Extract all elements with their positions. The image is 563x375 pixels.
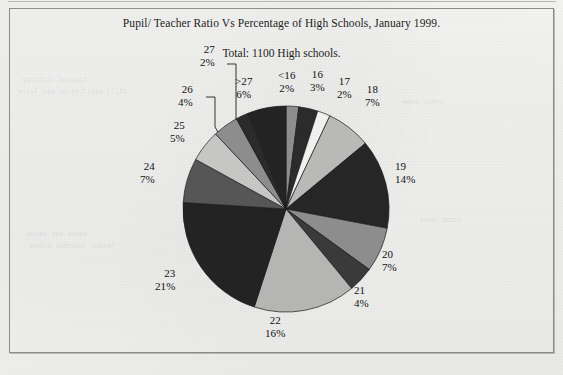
scanned-page: nauonal vomumg (0251 snits Len ent anu T… [0, 0, 563, 375]
pie-label-20: 20 7% [382, 248, 397, 273]
pie-wedges [183, 106, 389, 312]
chart-frame: Pupil/ Teacher Ratio Vs Percentage of Hi… [9, 8, 554, 353]
pie-label-19: 19 14% [395, 160, 415, 185]
pie-plot-area: <16 2% 16 3% 17 2% 18 7% 19 14% 20 7% [10, 9, 553, 352]
pie-label-17: 17 2% [337, 75, 352, 100]
pie-label-21: 21 4% [354, 284, 369, 309]
page-top-rule [8, 1, 556, 2]
pie-label-26: 26 4% [178, 83, 193, 108]
pie-label-23: 23 21% [155, 267, 175, 292]
pie-label-18: 18 7% [365, 83, 380, 108]
pie-label-16: 16 3% [310, 68, 325, 93]
pie-label-gt27: >27 6% [235, 75, 253, 100]
pie-chart-svg [10, 9, 555, 354]
pie-label-24: 24 7% [140, 160, 155, 185]
pie-label-25: 25 5% [170, 119, 185, 144]
pie-label-lt16: <16 2% [278, 69, 296, 94]
pie-label-22: 22 16% [265, 314, 285, 339]
pie-label-27: 27 2% [200, 43, 215, 68]
